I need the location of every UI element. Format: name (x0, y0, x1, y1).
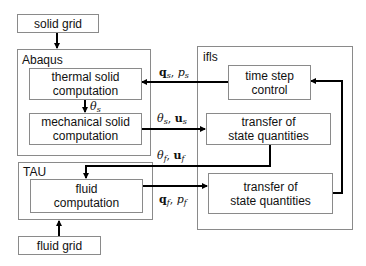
edge-label-theta-s: θs (90, 101, 101, 113)
fluid-computation-node: fluid computation (30, 179, 143, 213)
fluid-line2: computation (54, 196, 119, 210)
solid-grid-node: solid grid (17, 14, 99, 33)
edge-label-qs-ps: qs, ps (159, 67, 189, 79)
u-symbol: u (175, 112, 183, 125)
theta-symbol: θ (157, 149, 164, 162)
timestep-line2: control (251, 83, 287, 97)
fluid-grid-label: fluid grid (37, 239, 82, 253)
mechanical-line1: mechanical solid (41, 115, 130, 129)
sub-s: s (185, 71, 189, 80)
thermal-line2: computation (53, 84, 118, 98)
transfer-state-node-1: transfer of state quantities (206, 113, 331, 145)
sub-s: s (97, 105, 101, 114)
time-step-control-node: time step control (228, 65, 311, 100)
sep: , (170, 193, 177, 206)
thermal-line1: thermal solid (51, 70, 119, 84)
q-symbol: q (159, 66, 167, 79)
edge-label-theta-s-us: θs, us (157, 113, 187, 125)
sep: , (168, 112, 175, 125)
p-symbol: p (178, 66, 185, 79)
sep: , (171, 66, 178, 79)
sub-s: s (183, 117, 187, 126)
transfer1-line2: state quantities (228, 129, 309, 143)
sep: , (167, 149, 174, 162)
theta-symbol: θ (90, 100, 97, 113)
transfer1-line1: transfer of (241, 115, 295, 129)
fluid-grid-node: fluid grid (18, 236, 101, 255)
mechanical-solid-node: mechanical solid computation (29, 113, 142, 145)
solid-grid-label: solid grid (34, 17, 82, 31)
fluid-line1: fluid (75, 182, 97, 196)
sub-f: f (184, 198, 187, 207)
theta-symbol: θ (157, 112, 164, 125)
edge-label-theta-f-uf: θf, uf (157, 150, 185, 162)
timestep-line1: time step (245, 69, 294, 83)
q-symbol: q (159, 193, 167, 206)
u-symbol: u (174, 149, 182, 162)
p-symbol: p (177, 193, 184, 206)
transfer2-line1: transfer of (243, 180, 297, 194)
thermal-solid-node: thermal solid computation (29, 68, 142, 100)
edge-label-qf-pf: qf, pf (159, 194, 187, 206)
mechanical-line2: computation (53, 129, 118, 143)
transfer2-line2: state quantities (230, 194, 311, 208)
sub-f: f (182, 154, 185, 163)
transfer-state-node-2: transfer of state quantities (208, 173, 333, 214)
